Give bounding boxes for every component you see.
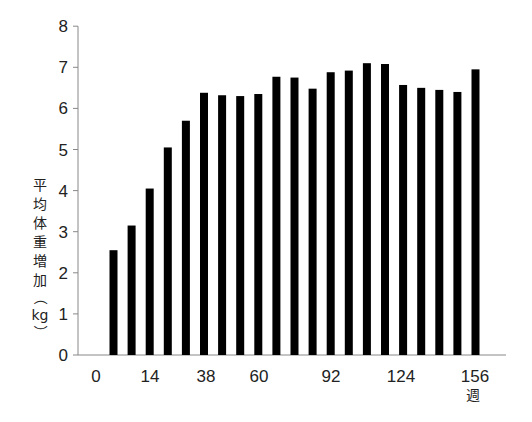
bar	[254, 94, 262, 355]
y-tick-label: 1	[59, 305, 68, 324]
y-label-char: 平	[30, 176, 50, 195]
bar	[164, 147, 172, 355]
bars	[110, 63, 480, 355]
bar	[200, 93, 208, 355]
y-tick-label: 7	[59, 58, 68, 77]
y-tick-label: 8	[59, 17, 68, 36]
x-axis-unit-label: 週	[466, 384, 480, 404]
bar	[128, 226, 136, 355]
y-label-char: 重	[30, 233, 50, 252]
y-label-open-paren: （	[32, 288, 48, 308]
bar	[236, 96, 244, 355]
y-label-char: 増	[30, 252, 50, 271]
y-label-char: 均	[30, 195, 50, 214]
bar	[345, 71, 353, 355]
y-label-close-paren: ）	[32, 322, 48, 342]
y-tick-label: 5	[59, 141, 68, 160]
bar	[110, 250, 118, 355]
y-tick-label: 4	[59, 182, 68, 201]
bar	[272, 77, 280, 355]
y-axis-label: 平 均 体 重 増 加 （ kg ）	[30, 176, 50, 340]
x-tick-label: 0	[91, 367, 100, 386]
bar	[363, 63, 371, 355]
bar	[291, 78, 299, 355]
x-tick-label: 14	[141, 367, 160, 386]
bar	[417, 88, 425, 355]
bar-chart: 012345678 014386092124156	[0, 0, 532, 422]
y-tick-label: 6	[59, 99, 68, 118]
y-axis: 012345678	[59, 17, 78, 365]
bar	[182, 121, 190, 355]
x-tick-label: 92	[322, 367, 341, 386]
y-tick-label: 0	[59, 346, 68, 365]
bar	[472, 69, 480, 355]
x-tick-label: 38	[197, 367, 216, 386]
x-tick-label: 60	[250, 367, 269, 386]
y-tick-label: 3	[59, 223, 68, 242]
bar	[381, 64, 389, 355]
bar	[399, 85, 407, 355]
y-tick-label: 2	[59, 264, 68, 283]
bar	[309, 89, 317, 355]
bar	[435, 90, 443, 355]
bar	[327, 72, 335, 355]
bar	[453, 92, 461, 355]
x-axis: 014386092124156	[78, 355, 506, 386]
bar	[146, 189, 154, 355]
x-tick-label: 124	[387, 367, 415, 386]
bar	[218, 95, 226, 355]
y-label-char: 体	[30, 214, 50, 233]
